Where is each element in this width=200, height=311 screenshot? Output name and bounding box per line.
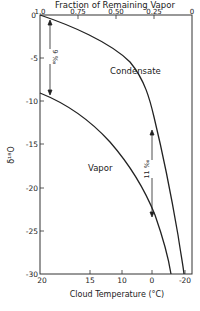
y-axis-label: δ¹⁸O [7,146,16,164]
y-tick: -20 [26,184,38,193]
y-tick-marks [40,58,44,231]
annotation-9-permil: 9 ‰ [51,50,59,65]
annotation-11-permil: 11 ‰ [143,159,151,178]
vapor-label: Vapor [88,163,113,173]
y-tick: 0 [31,11,36,20]
y-tick: -5 [31,54,39,63]
y-tick: -10 [26,97,38,106]
bottom-tick: 10 [117,276,127,285]
y-tick: -15 [26,140,38,149]
chart: Fraction of Remaining Vapor 1.0 0.75 0.5… [0,0,200,311]
x-axis-label: Cloud Temperature (°C) [70,290,164,299]
bottom-tick: -20 [179,276,191,285]
bottom-tick: 15 [85,276,95,285]
vapor-curve [40,93,171,274]
bottom-tick: 20 [37,276,47,285]
top-tick-marks [78,15,154,19]
y-tick: -25 [26,227,38,236]
plot-frame [40,15,192,274]
condensate-label: Condensate [110,66,161,76]
bottom-tick: 0 [150,276,155,285]
